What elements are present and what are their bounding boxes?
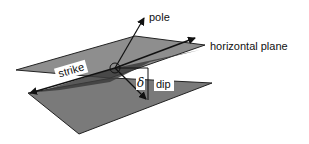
horizontal-plane-label: horizontal plane [210,40,288,52]
dipping-plane [28,78,212,134]
pole-label: pole [149,11,170,23]
dip-label: dip [156,78,171,90]
dip-angle-symbol: δ [137,76,144,90]
strike-dip-diagram: strike δ dip pole horizontal plane [0,0,309,144]
